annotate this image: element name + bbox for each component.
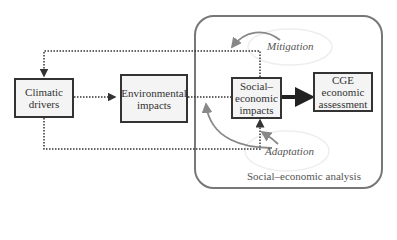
- social-impacts-line2: economic: [235, 92, 278, 104]
- cge-line1: CGE: [319, 74, 368, 86]
- environmental-impacts-line2: impacts: [121, 99, 186, 111]
- social-impacts-line3: impacts: [235, 104, 278, 116]
- social-impacts-line1: Social–: [235, 80, 278, 92]
- environmental-impacts-node: Environmental impacts: [120, 74, 188, 123]
- cge-line3: assessment: [319, 98, 368, 110]
- cge-line2: economic: [319, 86, 368, 98]
- adaptation-label: Adaptation: [265, 145, 314, 157]
- social-economic-impacts-node: Social– economic impacts: [231, 77, 282, 119]
- climatic-drivers-line2: drivers: [25, 98, 63, 110]
- environmental-impacts-line1: Environmental: [121, 87, 186, 99]
- cge-assessment-node: CGE economic assessment: [313, 72, 373, 112]
- container-label: Social–economic analysis: [247, 170, 361, 182]
- mitigation-label: Mitigation: [267, 40, 313, 52]
- climatic-drivers-line1: Climatic: [25, 86, 63, 98]
- climatic-drivers-node: Climatic drivers: [14, 78, 74, 118]
